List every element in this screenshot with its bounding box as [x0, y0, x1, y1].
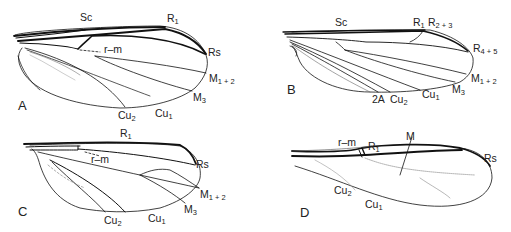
- label-cu2: Cu2: [390, 94, 408, 107]
- label-2a: 2A: [372, 94, 385, 105]
- label-cu1: Cu1: [155, 108, 173, 121]
- label-r1: R1: [413, 17, 425, 30]
- label-m: M: [406, 131, 415, 142]
- label-r-m: r–m: [104, 44, 122, 55]
- label-sc: Sc: [335, 17, 347, 28]
- wing-b: [283, 30, 473, 92]
- label-m1-2: M1 + 2: [471, 73, 497, 86]
- label-r1: R1: [120, 128, 132, 141]
- label-r1: R1: [368, 141, 380, 154]
- label-r1: R1: [167, 13, 179, 26]
- panel-label-a: A: [18, 98, 27, 113]
- label-rs: Rs: [208, 47, 221, 58]
- label-cu1: Cu1: [148, 213, 166, 226]
- panel-label-b: B: [287, 82, 296, 97]
- label-cu2: Cu2: [334, 185, 352, 198]
- label-r4-5: R4 + 5: [473, 43, 497, 56]
- panel-label-c: C: [18, 204, 27, 219]
- wing-a: [14, 26, 207, 108]
- label-r-m: r–m: [338, 137, 356, 148]
- label-cu1: Cu1: [365, 199, 383, 212]
- label-m3: M3: [193, 92, 206, 105]
- wing-c: [24, 142, 200, 212]
- label-r2-3: R2 + 3: [428, 17, 452, 30]
- label-m1-2: M1 + 2: [200, 189, 226, 202]
- label-rs: Rs: [196, 159, 209, 170]
- label-r-m: r–m: [91, 154, 109, 165]
- label-cu2: Cu2: [104, 215, 122, 228]
- label-m3: M3: [452, 84, 465, 97]
- label-cu1: Cu1: [422, 89, 440, 102]
- label-cu2: Cu2: [118, 110, 136, 123]
- wing-venation-diagrams: [0, 0, 511, 232]
- label-sc: Sc: [80, 12, 92, 23]
- panel-label-d: D: [300, 205, 309, 220]
- label-rs: Rs: [484, 153, 497, 164]
- label-m3: M3: [184, 204, 197, 217]
- label-m1-2: M1 + 2: [209, 73, 235, 86]
- wing-d: [292, 137, 492, 206]
